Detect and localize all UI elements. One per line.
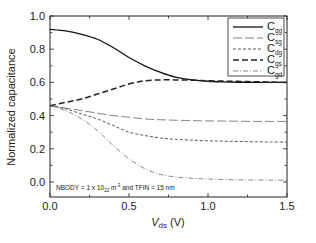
series-c-gd [50,106,287,181]
x-tick-labels: 0.00.51.01.5 [42,200,294,212]
x-tick-label: 0.0 [42,200,57,212]
y-axis-label: Normalized capacitance [5,48,17,165]
series-c-gs [50,80,287,106]
x-axis-label: Vds (V) [151,216,185,230]
legend: CggCsgCdgCgsCgd [228,18,284,79]
series-c-dg [50,106,287,143]
x-tick-label: 1.5 [279,200,294,212]
x-tick-label: 0.5 [121,200,136,212]
y-tick-label: 1.0 [30,10,45,22]
series-c-sg [50,106,287,122]
y-tick-labels: 0.00.20.40.60.81.0 [30,10,45,188]
y-tick-label: 0.0 [30,176,45,188]
y-tick-label: 0.6 [30,76,45,88]
x-tick-label: 1.0 [200,200,215,212]
y-tick-label: 0.4 [30,110,45,122]
y-tick-label: 0.2 [30,143,45,155]
y-tick-label: 0.8 [30,43,45,55]
capacitance-chart: 0.00.20.40.60.81.0 0.00.51.01.5 Normaliz… [0,0,316,243]
annotation-text: NBODY = 1 x 1022 m-3 and TFIN = 15 nm [56,183,175,193]
